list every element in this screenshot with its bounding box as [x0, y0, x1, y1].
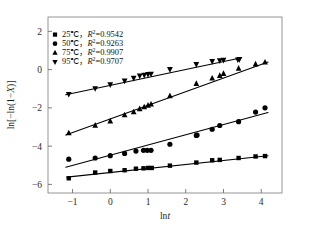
- data-point-square-icon: [122, 168, 126, 172]
- avrami-plot-figure: −101234 20−2−4−6 25℃，R2=0.954250℃，R2=0.9…: [0, 0, 309, 228]
- data-point-square-icon: [210, 158, 214, 162]
- legend-item-25℃: 25℃，R2=0.9542: [53, 29, 123, 39]
- data-point-triangle-up-icon: [221, 70, 227, 76]
- data-point-square-icon: [150, 166, 154, 170]
- data-point-square-icon: [194, 160, 198, 164]
- y-axis-title: ln[−ln(1−X)]: [6, 81, 17, 130]
- data-point-square-icon: [93, 170, 97, 174]
- data-point-triangle-down-icon: [167, 67, 173, 73]
- legend-item-75℃: 75℃，R2=0.9907: [52, 47, 123, 57]
- chart-canvas: −101234 20−2−4−6 25℃，R2=0.954250℃，R2=0.9…: [0, 0, 309, 228]
- data-point-square-icon: [108, 169, 112, 173]
- data-point-circle-icon: [210, 127, 215, 132]
- y-tick-label: −4: [32, 142, 42, 152]
- legend-marker-circle-icon: [53, 41, 58, 46]
- data-point-square-icon: [141, 166, 145, 170]
- data-point-triangle-up-icon: [193, 80, 199, 86]
- y-tick-label: −6: [32, 180, 42, 190]
- x-tick-label: 0: [108, 197, 113, 207]
- data-point-circle-icon: [253, 110, 258, 115]
- data-point-circle-icon: [66, 157, 71, 162]
- data-point-circle-icon: [133, 149, 138, 154]
- data-point-triangle-up-icon: [167, 93, 173, 99]
- x-tick-label: −1: [67, 197, 77, 207]
- data-point-triangle-up-icon: [262, 59, 268, 65]
- x-tick-label: 1: [146, 197, 151, 207]
- data-point-triangle-up-icon: [209, 75, 215, 81]
- data-point-square-icon: [253, 154, 257, 158]
- data-point-circle-icon: [167, 142, 172, 147]
- data-point-circle-icon: [148, 148, 153, 153]
- data-point-square-icon: [218, 158, 222, 162]
- data-points: [66, 57, 268, 180]
- data-point-circle-icon: [108, 153, 113, 158]
- legend-marker-triangle-up-icon: [52, 50, 57, 55]
- x-tick-label: 2: [183, 197, 188, 207]
- legend: 25℃，R2=0.954250℃，R2=0.926375℃，R2=0.99079…: [52, 29, 123, 66]
- data-point-circle-icon: [122, 151, 127, 156]
- data-point-square-icon: [67, 176, 71, 180]
- x-tick-label: 3: [221, 197, 226, 207]
- data-point-circle-icon: [262, 105, 267, 110]
- series-50℃: [66, 105, 267, 161]
- data-point-square-icon: [146, 166, 150, 170]
- x-axis-title: lnt: [160, 211, 170, 221]
- x-tick-label: 4: [259, 197, 264, 207]
- y-axis-ticks: 20−2−4−6: [32, 27, 52, 190]
- legend-label: 95℃，R2=0.9707: [62, 56, 123, 66]
- y-tick-label: −2: [32, 103, 42, 113]
- data-point-triangle-up-icon: [66, 130, 72, 136]
- legend-item-50℃: 50℃，R2=0.9263: [53, 38, 124, 48]
- legend-item-95℃: 95℃，R2=0.9707: [52, 56, 123, 66]
- data-point-circle-icon: [93, 155, 98, 160]
- data-point-square-icon: [168, 163, 172, 167]
- data-point-square-icon: [263, 154, 267, 158]
- y-tick-label: 2: [37, 27, 42, 37]
- data-point-triangle-up-icon: [253, 61, 259, 67]
- data-point-circle-icon: [195, 132, 200, 137]
- x-axis-ticks: −101234: [67, 189, 263, 207]
- legend-marker-square-icon: [53, 33, 57, 37]
- y-tick-label: 0: [37, 65, 42, 75]
- data-point-circle-icon: [236, 119, 241, 124]
- data-point-triangle-up-icon: [236, 65, 242, 71]
- legend-marker-triangle-down-icon: [52, 60, 57, 65]
- data-point-square-icon: [236, 156, 240, 160]
- data-point-square-icon: [134, 167, 138, 171]
- data-point-circle-icon: [217, 123, 222, 128]
- data-point-triangle-up-icon: [137, 106, 143, 112]
